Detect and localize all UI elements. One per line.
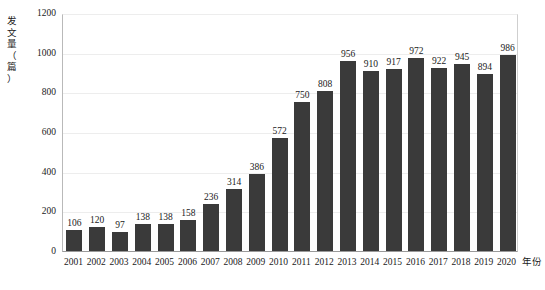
x-axis-tick-label: 2013: [338, 256, 357, 268]
bar-slot: 917: [386, 15, 402, 251]
x-axis-tick-label: 2019: [474, 256, 493, 268]
bar-value-label: 972: [409, 46, 423, 56]
bar-value-label: 917: [386, 57, 400, 67]
bar-value-label: 158: [181, 208, 195, 218]
bar-slot: 386: [249, 15, 265, 251]
bar-value-label: 956: [341, 49, 355, 59]
bar[interactable]: [89, 227, 105, 251]
bar-slot: 808: [317, 15, 333, 251]
x-axis-title: 年份: [522, 256, 542, 268]
x-axis-tick-label: 2001: [64, 256, 83, 268]
bar-slot: 956: [340, 15, 356, 251]
bar-value-label: 106: [67, 218, 81, 228]
bar-slot: 138: [158, 15, 174, 251]
bar[interactable]: [408, 58, 424, 251]
bar[interactable]: [112, 232, 128, 251]
bar-slot: 922: [431, 15, 447, 251]
bar-slot: 236: [203, 15, 219, 251]
x-axis-tick-label: 2010: [269, 256, 288, 268]
x-axis-tick-label: 2012: [315, 256, 334, 268]
bar[interactable]: [294, 102, 310, 251]
bar[interactable]: [477, 74, 493, 251]
bar-value-label: 922: [432, 56, 446, 66]
y-axis-tick-label: 0: [22, 247, 56, 257]
y-axis-tick-label: 1200: [22, 9, 56, 19]
bar-value-label: 894: [478, 62, 492, 72]
bar[interactable]: [249, 174, 265, 251]
y-axis-tick-label: 200: [22, 208, 56, 218]
x-axis-tick-label: 2020: [497, 256, 516, 268]
bar-value-label: 750: [295, 90, 309, 100]
x-axis-tick-label: 2009: [246, 256, 265, 268]
bar-slot: 106: [66, 15, 82, 251]
y-axis-tick-label: 600: [22, 128, 56, 138]
bar[interactable]: [500, 55, 516, 251]
bar[interactable]: [363, 71, 379, 251]
bar-value-label: 386: [250, 162, 264, 172]
y-axis-tick-label: 800: [22, 89, 56, 99]
bar-value-label: 314: [227, 177, 241, 187]
x-axis-tick-label: 2006: [178, 256, 197, 268]
y-axis-title-char: （: [4, 51, 20, 63]
bar-value-label: 138: [136, 212, 150, 222]
bar-slot: 910: [363, 15, 379, 251]
bar[interactable]: [386, 69, 402, 251]
x-axis-tick-label: 2002: [87, 256, 106, 268]
x-axis-tick-labels: 2001200220032004200520062007200820092010…: [62, 256, 518, 270]
y-axis-tick-label: 400: [22, 168, 56, 178]
bar-slot: 120: [89, 15, 105, 251]
bar-value-label: 986: [500, 43, 514, 53]
x-axis-tick-label: 2014: [360, 256, 379, 268]
y-axis-title-char: 发: [4, 16, 20, 28]
bar[interactable]: [203, 204, 219, 251]
bar-slot: 97: [112, 15, 128, 251]
bar-slot: 138: [135, 15, 151, 251]
bar-slot: 314: [226, 15, 242, 251]
bar-value-label: 910: [364, 59, 378, 69]
x-axis-tick-label: 2015: [383, 256, 402, 268]
bar-value-label: 945: [455, 52, 469, 62]
bar-value-label: 572: [272, 126, 286, 136]
y-axis-title: 发文量（篇）: [4, 16, 20, 85]
bar[interactable]: [158, 224, 174, 251]
bar[interactable]: [272, 138, 288, 251]
x-axis-tick-label: 2008: [224, 256, 243, 268]
bar-slot: 972: [408, 15, 424, 251]
y-axis-title-char: 量: [4, 39, 20, 51]
bar-slot: 750: [294, 15, 310, 251]
bars-layer: 1061209713813815823631438657275080895691…: [63, 15, 517, 251]
y-axis-tick-label: 1000: [22, 49, 56, 59]
bar-slot: 572: [272, 15, 288, 251]
bar-slot: 158: [180, 15, 196, 251]
x-axis-tick-label: 2003: [110, 256, 129, 268]
x-axis-tick-label: 2017: [429, 256, 448, 268]
bar[interactable]: [454, 64, 470, 251]
y-axis-tick-labels: 020040060080010001200: [22, 14, 56, 252]
bar[interactable]: [340, 61, 356, 251]
x-axis-tick-label: 2011: [292, 256, 311, 268]
bar[interactable]: [180, 220, 196, 251]
bar[interactable]: [431, 68, 447, 251]
y-axis-title-char: 文: [4, 28, 20, 40]
bar-value-label: 236: [204, 192, 218, 202]
bar[interactable]: [66, 230, 82, 251]
x-axis-tick-label: 2005: [155, 256, 174, 268]
y-axis-title-char: ）: [4, 74, 20, 86]
bar[interactable]: [226, 189, 242, 251]
x-axis-tick-label: 2007: [201, 256, 220, 268]
bar[interactable]: [135, 224, 151, 251]
bar[interactable]: [317, 91, 333, 251]
bar-chart: 发文量（篇） 020040060080010001200 10612097138…: [0, 0, 545, 290]
bar-slot: 945: [454, 15, 470, 251]
bar-slot: 986: [500, 15, 516, 251]
y-axis-title-char: 篇: [4, 62, 20, 74]
plot-area: 1061209713813815823631438657275080895691…: [62, 14, 518, 252]
bar-value-label: 120: [90, 215, 104, 225]
bar-value-label: 808: [318, 79, 332, 89]
bar-value-label: 97: [115, 220, 125, 230]
bar-value-label: 138: [158, 212, 172, 222]
bar-slot: 894: [477, 15, 493, 251]
x-axis-tick-label: 2016: [406, 256, 425, 268]
x-axis-tick-label: 2004: [132, 256, 151, 268]
x-axis-tick-label: 2018: [452, 256, 471, 268]
